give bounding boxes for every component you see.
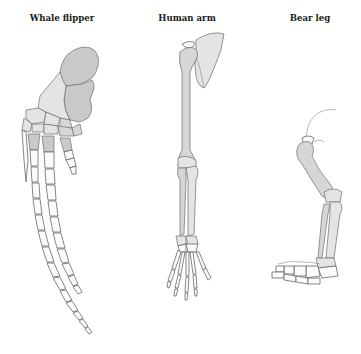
- homology-illustration: [0, 0, 361, 354]
- human-arm-skeleton-icon: [167, 33, 224, 300]
- whale-flipper-skeleton-icon: [22, 47, 99, 334]
- bear-leg-skeleton-icon: [272, 109, 342, 284]
